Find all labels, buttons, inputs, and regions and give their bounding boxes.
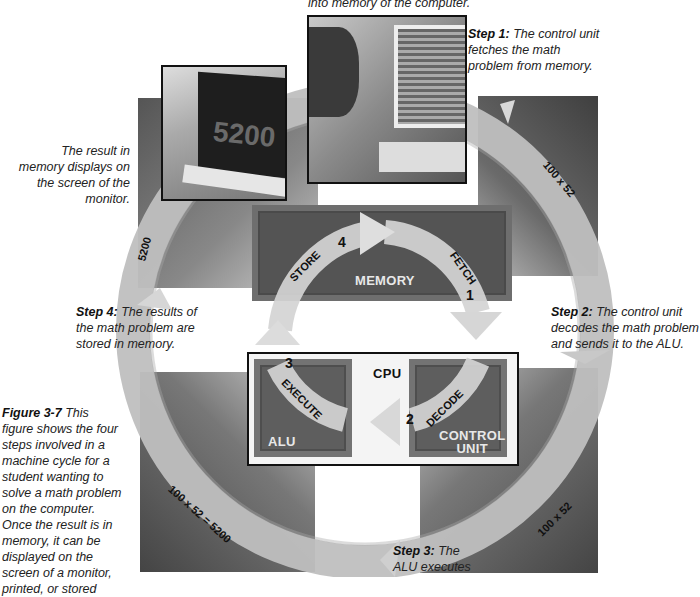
decode-arrowhead [370, 398, 400, 446]
execute-number: 3 [285, 355, 293, 371]
store-number: 4 [338, 234, 346, 250]
execute-arrowhead [255, 320, 300, 345]
fetch-arrowhead [450, 312, 502, 340]
fetch-number: 1 [466, 287, 474, 303]
store-arrowhead [360, 212, 395, 255]
decode-number: 2 [406, 411, 414, 427]
